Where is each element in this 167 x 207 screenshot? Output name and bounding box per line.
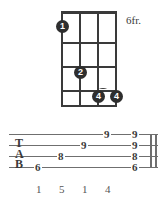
tab-note[interactable]: 6 xyxy=(34,162,42,173)
barre-arc xyxy=(93,80,113,89)
chord-chart-page: 1 2 4 4 6fr. T A B 6 8 9 9 9 9 8 6 1 5 1… xyxy=(0,0,167,207)
end-barline-thick xyxy=(155,134,157,167)
tab-note[interactable]: 8 xyxy=(57,151,65,162)
fingering-number: 1 xyxy=(36,184,42,195)
finger-dot-1[interactable]: 1 xyxy=(56,20,69,33)
tab-note[interactable]: 6 xyxy=(131,162,139,173)
nut-bar xyxy=(61,11,117,14)
tab-note[interactable]: 9 xyxy=(80,140,88,151)
fingering-number: 5 xyxy=(59,184,65,195)
fret-line-1 xyxy=(61,42,117,44)
finger-dot-4[interactable]: 4 xyxy=(110,90,123,103)
fret-position-label: 6fr. xyxy=(126,14,141,26)
fret-line-3 xyxy=(61,90,117,92)
fingering-number: 1 xyxy=(82,184,88,195)
tab-clef-letter-b: B xyxy=(15,158,23,170)
end-barline-thin xyxy=(150,134,152,167)
tab-note[interactable]: 9 xyxy=(103,129,111,140)
finger-dot-3[interactable]: 4 xyxy=(92,90,105,103)
fingering-row: 1 5 1 4 xyxy=(9,184,158,200)
string-line-2 xyxy=(79,11,81,107)
chord-diagram: 1 2 4 4 xyxy=(61,11,117,107)
finger-dot-2[interactable]: 2 xyxy=(74,66,87,79)
fret-line-4 xyxy=(61,105,117,107)
fret-line-2 xyxy=(61,66,117,68)
fingering-number: 4 xyxy=(105,184,111,195)
tablature-staff: T A B 6 8 9 9 9 9 8 6 xyxy=(9,134,158,176)
